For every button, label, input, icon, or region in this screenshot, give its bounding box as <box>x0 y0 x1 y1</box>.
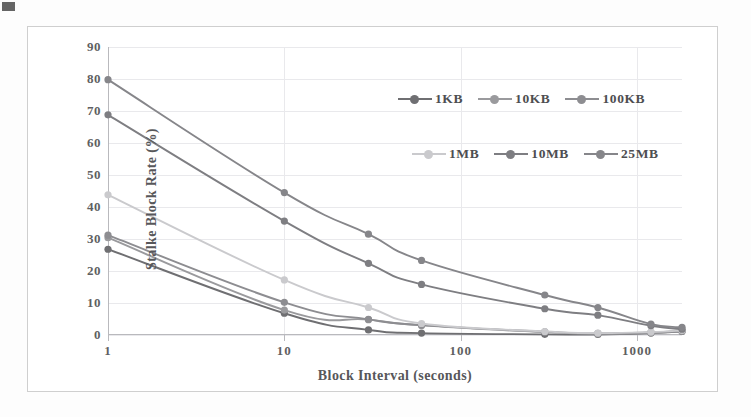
y-tick-label: 70 <box>87 103 101 119</box>
chart-legend: 1KB10KB100KB 1MB10MB25MB <box>398 88 688 165</box>
data-point-marker <box>365 260 372 267</box>
legend-item-1kb[interactable]: 1KB <box>398 91 463 107</box>
legend-label: 10MB <box>531 146 569 162</box>
x-tick-mark <box>108 335 109 341</box>
data-point-marker <box>365 326 372 333</box>
data-point-marker <box>365 316 372 323</box>
y-tick-label: 80 <box>87 71 101 87</box>
data-point-marker <box>104 76 111 83</box>
data-point-marker <box>647 321 654 328</box>
data-point-marker <box>104 191 111 198</box>
x-tick-label: 10 <box>277 343 292 359</box>
data-point-marker <box>281 189 288 196</box>
legend-marker-icon <box>584 148 618 160</box>
data-point-marker <box>678 324 685 331</box>
legend-row-bottom: 1MB10MB25MB <box>398 143 688 165</box>
y-tick-label: 50 <box>87 167 101 183</box>
series-line <box>108 249 682 334</box>
data-point-marker <box>541 291 548 298</box>
data-point-marker <box>281 306 288 313</box>
data-point-marker <box>281 299 288 306</box>
data-point-marker <box>418 320 425 327</box>
y-tick-label: 0 <box>94 327 101 343</box>
data-point-marker <box>418 257 425 264</box>
legend-label: 1KB <box>435 91 463 107</box>
legend-label: 25MB <box>621 146 659 162</box>
legend-label: 10KB <box>515 91 550 107</box>
data-point-marker <box>104 246 111 253</box>
x-axis-title: Block Interval (seconds) <box>108 368 682 384</box>
legend-label: 100KB <box>602 91 645 107</box>
y-tick-label: 10 <box>87 295 101 311</box>
data-point-marker <box>594 329 601 336</box>
data-point-marker <box>281 217 288 224</box>
x-tick-label: 1 <box>104 343 112 359</box>
legend-item-100kb[interactable]: 100KB <box>565 91 645 107</box>
data-point-marker <box>104 232 111 239</box>
legend-marker-icon <box>412 148 446 160</box>
data-point-marker <box>418 281 425 288</box>
series-1kb <box>104 246 685 338</box>
y-tick-label: 40 <box>87 199 101 215</box>
x-tick-mark <box>284 335 285 341</box>
legend-label: 1MB <box>449 146 479 162</box>
data-point-marker <box>541 328 548 335</box>
legend-item-25mb[interactable]: 25MB <box>584 146 659 162</box>
y-tick-label: 60 <box>87 135 101 151</box>
x-tick-mark <box>461 335 462 341</box>
y-tick-label: 90 <box>87 39 101 55</box>
data-point-marker <box>281 276 288 283</box>
legend-marker-icon <box>478 93 512 105</box>
data-point-marker <box>365 231 372 238</box>
legend-marker-icon <box>565 93 599 105</box>
data-point-marker <box>594 312 601 319</box>
legend-marker-icon <box>398 93 432 105</box>
data-point-marker <box>418 329 425 336</box>
x-tick-label: 100 <box>449 343 472 359</box>
x-tick-mark <box>637 335 638 341</box>
scan-artifact-mark <box>2 2 15 11</box>
y-tick-label: 20 <box>87 263 101 279</box>
legend-row-top: 1KB10KB100KB <box>398 88 688 110</box>
data-point-marker <box>365 304 372 311</box>
data-point-marker <box>541 305 548 312</box>
data-point-marker <box>594 304 601 311</box>
legend-marker-icon <box>494 148 528 160</box>
figure-root: 0102030405060708090 1101001000 Stalke Bl… <box>0 0 751 417</box>
data-point-marker <box>104 111 111 118</box>
legend-item-10kb[interactable]: 10KB <box>478 91 550 107</box>
series-100kb <box>104 232 685 337</box>
y-axis-title: Stalke Block Rate (%) <box>144 59 160 339</box>
legend-item-10mb[interactable]: 10MB <box>494 146 569 162</box>
legend-item-1mb[interactable]: 1MB <box>412 146 479 162</box>
x-tick-label: 1000 <box>622 343 652 359</box>
y-tick-label: 30 <box>87 231 101 247</box>
data-point-marker <box>647 329 654 336</box>
